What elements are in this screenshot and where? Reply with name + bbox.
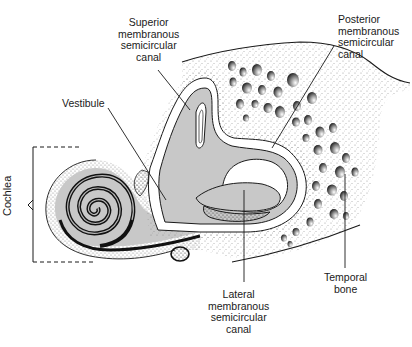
label-temporal-bone: Temporal bone bbox=[324, 272, 367, 295]
inner-ear-diagram: Superior membranous semicircular canal P… bbox=[0, 0, 412, 347]
label-cochlea: Cochlea bbox=[2, 176, 16, 216]
label-superior-membranous-semicircular-canal: Superior membranous semicircular canal bbox=[118, 17, 179, 63]
label-lateral-membranous-semicircular-canal: Lateral membranous semicircular canal bbox=[208, 289, 269, 335]
label-vestibule: Vestibule bbox=[62, 98, 105, 110]
label-posterior-membranous-semicircular-canal: Posterior membranous semicircular canal bbox=[338, 14, 399, 60]
